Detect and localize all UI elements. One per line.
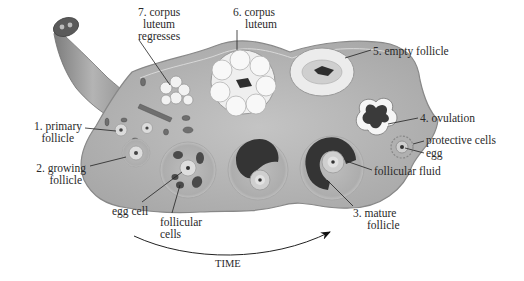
label-egg: egg bbox=[426, 147, 443, 159]
label-empty-follicle: 5. empty follicle bbox=[373, 45, 449, 57]
label-ovulation: 4. ovulation bbox=[420, 112, 475, 124]
label-time: TIME bbox=[215, 258, 241, 270]
label-protective-cells: protective cells bbox=[426, 134, 496, 146]
mature-follicle bbox=[300, 136, 364, 200]
label-mature-follicle: 3. mature follicle bbox=[353, 207, 400, 231]
label-follicular-cells: follicular cells bbox=[160, 216, 202, 240]
follicle-with-cells bbox=[160, 142, 216, 198]
label-egg-cell: egg cell bbox=[112, 205, 148, 217]
label-corpus-luteum: 6. corpus luteum bbox=[231, 6, 277, 30]
growing-follicle bbox=[122, 139, 150, 167]
label-corpus-luteum-regresses: 7. corpus luteum regresses bbox=[138, 6, 180, 42]
label-primary-follicle: 1. primary follicle bbox=[26, 120, 82, 144]
label-growing-follicle: 2. growing follicle bbox=[30, 162, 86, 186]
released-egg bbox=[391, 136, 413, 158]
label-follicular-fluid: follicular fluid bbox=[374, 165, 441, 177]
ovarian-cycle-diagram: 7. corpus luteum regresses 6. corpus lut… bbox=[0, 0, 524, 281]
antral-follicle bbox=[228, 139, 288, 200]
empty-follicle bbox=[290, 48, 354, 96]
